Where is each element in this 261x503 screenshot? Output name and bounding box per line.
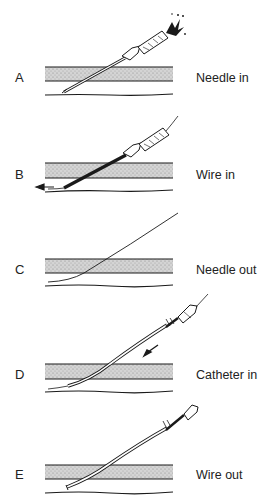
step-caption: Needle out (196, 263, 256, 277)
blood-splash-icon (166, 13, 186, 36)
skin-layer (45, 259, 173, 273)
skin-layer (45, 67, 173, 81)
step-letter: E (15, 467, 24, 482)
panel-a-illustration (45, 13, 186, 95)
down-left-arrow-icon (144, 345, 158, 356)
step-letter: A (15, 70, 24, 85)
vessel-wall (45, 492, 173, 494)
vessel-wall (45, 94, 173, 95)
step-letter: C (15, 262, 24, 277)
step-letter: D (15, 367, 24, 382)
step-letter: B (15, 167, 24, 182)
panel-e-illustration (45, 405, 198, 494)
guidewire (166, 116, 178, 131)
panel-b-illustration (36, 116, 178, 192)
step-caption: Needle in (196, 71, 249, 85)
step-caption: Wire out (196, 468, 243, 482)
guidewire-tip (48, 188, 64, 189)
step-caption: Wire in (196, 168, 235, 182)
needle-icon (62, 31, 168, 93)
vessel-wall (45, 391, 173, 393)
panel-c-illustration (45, 213, 178, 287)
needle-icon (64, 128, 169, 188)
vessel-wall (45, 190, 173, 192)
vessel-wall (45, 285, 173, 287)
panel-d-illustration (45, 294, 208, 393)
skin-layer (45, 465, 173, 479)
step-caption: Catheter in (196, 368, 257, 382)
